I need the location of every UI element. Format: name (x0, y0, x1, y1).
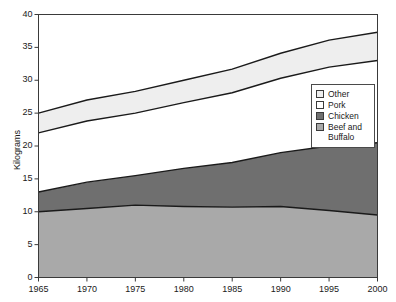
legend-label: Beef andBuffalo (328, 122, 362, 142)
legend-label: Chicken (328, 111, 359, 121)
chart-legend: OtherPorkChickenBeef andBuffalo (311, 84, 375, 148)
legend-item-chicken[interactable]: Chicken (316, 111, 370, 121)
legend-label: Pork (328, 100, 345, 110)
legend-swatch-icon (316, 101, 324, 109)
legend-label: Other (328, 89, 349, 99)
legend-swatch-icon (316, 123, 324, 131)
legend-swatch-icon (316, 112, 324, 120)
stacked-area-chart: Kilograms 0510152025303540 1965197019751… (0, 0, 396, 302)
legend-item-pork[interactable]: Pork (316, 100, 370, 110)
plot-area (0, 0, 396, 302)
legend-item-beef-and-buffalo[interactable]: Beef andBuffalo (316, 122, 370, 142)
legend-swatch-icon (316, 90, 324, 98)
area-series-group (39, 32, 378, 277)
legend-item-other[interactable]: Other (316, 89, 370, 99)
area-beef-and-buffalo (39, 205, 378, 277)
